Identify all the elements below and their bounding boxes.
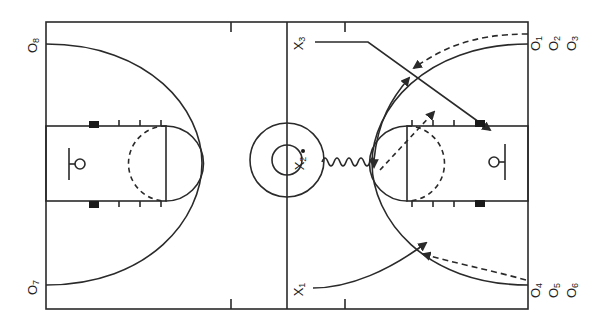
- left-lane-block-bottom: [89, 201, 99, 208]
- ball-icon: [301, 149, 305, 153]
- player-o6: O6: [565, 283, 580, 298]
- player-o5: O5: [547, 283, 562, 298]
- left-lane-ticks: [119, 120, 161, 207]
- left-lane-block-top: [89, 121, 99, 128]
- x2-dribble-path: [322, 158, 374, 167]
- left-rim: [75, 159, 85, 169]
- right-lane-block-bottom: [475, 200, 485, 207]
- player-o7: O7: [26, 280, 41, 295]
- o4-pass-path: [423, 254, 526, 280]
- left-key: [46, 126, 166, 201]
- player-o2: O2: [547, 36, 562, 51]
- player-x3: X3: [292, 37, 307, 51]
- player-o3: O3: [565, 36, 580, 51]
- right-key: [407, 126, 528, 201]
- right-lane-block-top: [475, 120, 485, 127]
- right-free-throw-arc-dashed: [407, 126, 445, 201]
- right-lane-ticks: [412, 120, 454, 207]
- player-o4: O4: [529, 283, 544, 298]
- player-x2: X2: [293, 157, 308, 171]
- left-free-throw-arc-dashed: [129, 126, 167, 201]
- player-x1: X1: [292, 283, 307, 297]
- player-o8: O8: [26, 38, 41, 53]
- right-rim: [489, 157, 499, 167]
- x1-cut-path: [313, 243, 426, 288]
- player-o1: O1: [529, 36, 544, 51]
